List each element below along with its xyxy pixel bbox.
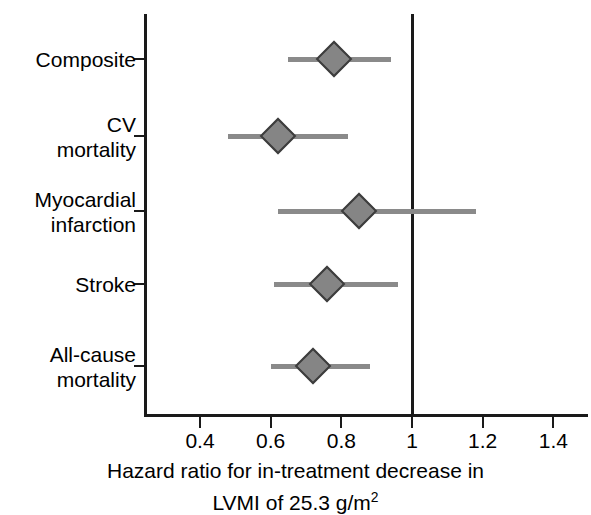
x-axis-caption-line-2-text: LVMI of 25.3 g/m bbox=[212, 491, 370, 514]
x-tick-5 bbox=[552, 417, 554, 428]
y-axis-label-all-cause-mortality: All-cause mortality bbox=[50, 342, 136, 392]
y-axis-line bbox=[144, 14, 147, 417]
y-axis-label-stroke: Stroke bbox=[75, 272, 136, 297]
x-axis-caption-line-2: LVMI of 25.3 g/m2 bbox=[0, 484, 591, 515]
x-tick-label-0: 0.4 bbox=[185, 429, 214, 453]
forest-plot-figure: CompositeCV mortalityMyocardial infarcti… bbox=[0, 0, 591, 515]
x-axis-caption-superscript: 2 bbox=[371, 489, 379, 505]
x-tick-label-5: 1.4 bbox=[539, 429, 568, 453]
x-tick-3 bbox=[411, 417, 413, 428]
x-tick-label-4: 1.2 bbox=[468, 429, 497, 453]
reference-line-at-1 bbox=[411, 14, 414, 417]
x-tick-2 bbox=[340, 417, 342, 428]
y-axis-label-cv-mortality: CV mortality bbox=[57, 112, 136, 162]
x-tick-1 bbox=[270, 417, 272, 428]
x-tick-4 bbox=[482, 417, 484, 428]
x-tick-label-1: 0.6 bbox=[256, 429, 285, 453]
x-axis-caption-line-1: Hazard ratio for in-treatment decrease i… bbox=[107, 459, 484, 482]
point-marker-4 bbox=[295, 348, 332, 385]
y-axis-label-composite: Composite bbox=[36, 47, 136, 72]
point-marker-2 bbox=[341, 193, 378, 230]
point-marker-0 bbox=[316, 41, 353, 78]
x-tick-label-2: 0.8 bbox=[327, 429, 356, 453]
x-tick-label-3: 1 bbox=[406, 429, 418, 453]
point-marker-3 bbox=[309, 266, 346, 303]
x-axis-caption: Hazard ratio for in-treatment decrease i… bbox=[0, 458, 591, 515]
x-tick-0 bbox=[199, 417, 201, 428]
point-marker-1 bbox=[259, 118, 296, 155]
x-axis-line bbox=[144, 414, 588, 417]
y-axis-label-myocardial-infarction: Myocardial infarction bbox=[34, 187, 136, 237]
